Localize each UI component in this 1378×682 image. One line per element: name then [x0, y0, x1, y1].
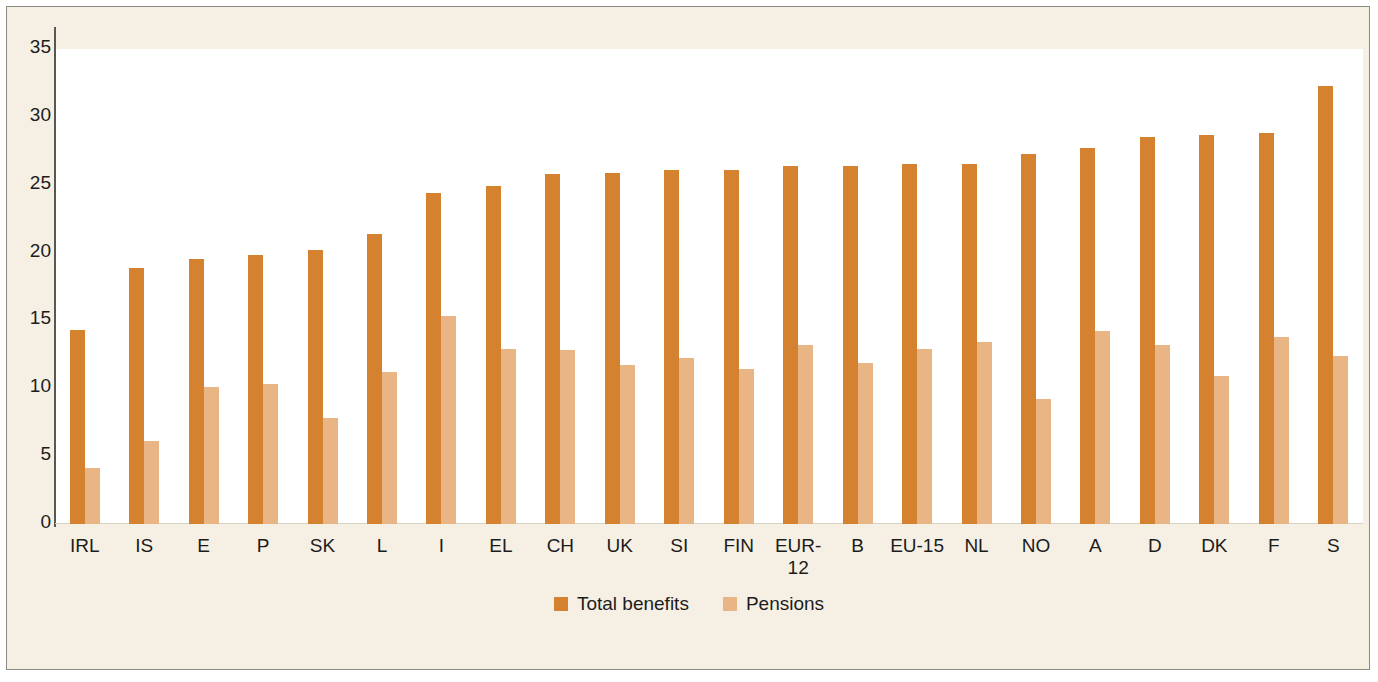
bar-group [352, 49, 411, 524]
bar-pensions [501, 349, 516, 524]
bar-total-benefits [70, 330, 85, 524]
y-tick-label: 5 [13, 443, 51, 465]
bar-group [828, 49, 887, 524]
bar-total-benefits [605, 173, 620, 525]
bar-total-benefits [783, 166, 798, 524]
legend-swatch-pensions [723, 597, 737, 611]
bar-total-benefits [129, 268, 144, 525]
x-tick-label: EUR-12 [768, 529, 827, 585]
x-tick-label: UK [590, 529, 649, 585]
bar-pensions [1155, 345, 1170, 524]
bar-group [1066, 49, 1125, 524]
bar-total-benefits [1140, 137, 1155, 524]
y-axis-tick-labels: 35302520151050 [7, 7, 51, 671]
bar-group [114, 49, 173, 524]
bar-total-benefits [1080, 148, 1095, 524]
bar-pensions [739, 369, 754, 524]
bar-pensions [85, 468, 100, 524]
bar-total-benefits [664, 170, 679, 524]
bar-total-benefits [724, 170, 739, 524]
bar-total-benefits [843, 166, 858, 524]
bar-group [233, 49, 292, 524]
y-tick-label: 30 [13, 104, 51, 126]
y-tick-label: 15 [13, 307, 51, 329]
x-axis-category-labels: IRLISEPSKLIELCHUKSIFINEUR-12BEU-15NLNOAD… [55, 529, 1363, 585]
bar-group [1125, 49, 1184, 524]
bar-pensions [1095, 331, 1110, 524]
bar-pensions [441, 316, 456, 524]
x-tick-label: NO [1006, 529, 1065, 585]
bar-pensions [798, 345, 813, 524]
bar-pensions [323, 418, 338, 524]
bar-group [471, 49, 530, 524]
bar-pensions [382, 372, 397, 524]
bar-group [947, 49, 1006, 524]
bar-total-benefits [1199, 135, 1214, 525]
x-tick-label: A [1066, 529, 1125, 585]
bar-total-benefits [248, 255, 263, 524]
bar-group [293, 49, 352, 524]
bar-group [55, 49, 114, 524]
bar-group [1304, 49, 1363, 524]
bar-pensions [679, 358, 694, 524]
bar-group [709, 49, 768, 524]
bar-pensions [1214, 376, 1229, 524]
bar-group [1244, 49, 1303, 524]
y-tick-label: 35 [13, 36, 51, 58]
x-tick-label: B [828, 529, 887, 585]
x-tick-label: EU-15 [887, 529, 946, 585]
bar-pensions [917, 349, 932, 524]
x-tick-label: P [233, 529, 292, 585]
x-tick-label: S [1304, 529, 1363, 585]
bar-pensions [560, 350, 575, 524]
legend-label: Pensions [746, 593, 824, 615]
legend-label: Total benefits [577, 593, 689, 615]
y-tick-label: 10 [13, 375, 51, 397]
y-tick-label: 0 [13, 511, 51, 533]
bar-total-benefits [486, 186, 501, 524]
bar-group [412, 49, 471, 524]
y-tick-label: 20 [13, 240, 51, 262]
bar-pensions [1036, 399, 1051, 524]
bar-pensions [977, 342, 992, 524]
bar-groups [55, 49, 1363, 524]
x-tick-label: L [352, 529, 411, 585]
x-tick-label: FIN [709, 529, 768, 585]
x-tick-label: IRL [55, 529, 114, 585]
bar-pensions [263, 384, 278, 524]
x-tick-label: CH [531, 529, 590, 585]
bar-total-benefits [902, 164, 917, 524]
bar-total-benefits [308, 250, 323, 524]
x-tick-label: EL [471, 529, 530, 585]
x-tick-label: SI [650, 529, 709, 585]
x-tick-label: SK [293, 529, 352, 585]
x-tick-label: NL [947, 529, 1006, 585]
x-tick-label: I [412, 529, 471, 585]
bar-pensions [858, 363, 873, 525]
bar-total-benefits [426, 193, 441, 524]
bar-total-benefits [189, 259, 204, 524]
x-tick-label: E [174, 529, 233, 585]
bar-pensions [620, 365, 635, 524]
bar-total-benefits [1259, 133, 1274, 524]
bar-total-benefits [962, 164, 977, 524]
x-tick-label: DK [1185, 529, 1244, 585]
x-tick-label: D [1125, 529, 1184, 585]
bar-group [1185, 49, 1244, 524]
chart-figure: 35302520151050 IRLISEPSKLIELCHUKSIFINEUR… [6, 6, 1370, 670]
bar-group [650, 49, 709, 524]
bar-group [531, 49, 590, 524]
x-tick-label: IS [114, 529, 173, 585]
bar-group [887, 49, 946, 524]
bar-group [590, 49, 649, 524]
bar-pensions [1333, 356, 1348, 524]
bar-total-benefits [1318, 86, 1333, 524]
bar-total-benefits [367, 234, 382, 524]
bar-group [174, 49, 233, 524]
y-tick-label: 25 [13, 172, 51, 194]
bar-pensions [1274, 337, 1289, 524]
bar-group [768, 49, 827, 524]
bar-pensions [204, 387, 219, 524]
bar-total-benefits [1021, 154, 1036, 525]
bar-group [1006, 49, 1065, 524]
